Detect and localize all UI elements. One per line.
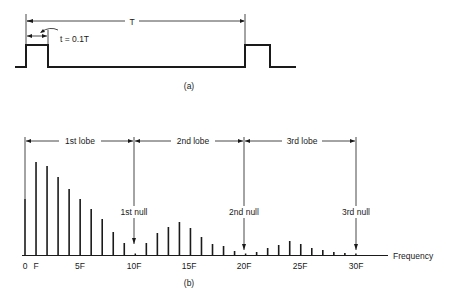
null-label-1: 1st null	[121, 207, 148, 217]
caption-b: (b)	[184, 278, 195, 288]
caption-a: (a)	[184, 81, 195, 91]
figure-canvas: T t = 0.1T (a) 1st lobe 2nd lobe 3rd lob…	[0, 0, 452, 302]
lobe-label-1: 1st lobe	[65, 136, 95, 146]
tick-label-5f: 5F	[75, 261, 85, 271]
tick-label-15f: 15F	[182, 261, 197, 271]
pulse-train-waveform	[15, 45, 296, 67]
tick-label-25f: 25F	[293, 261, 308, 271]
tick-label-10f: 10F	[127, 261, 142, 271]
lobe-label-3: 3rd lobe	[287, 136, 318, 146]
period-label: T	[129, 17, 134, 27]
x-axis-label: Frequency	[393, 251, 434, 261]
null-arrows	[132, 238, 358, 250]
lobe-label-2: 2nd lobe	[177, 136, 210, 146]
null-label-2: 2nd null	[229, 207, 259, 217]
spectrum-lines	[25, 162, 356, 255]
tick-label-20f: 20F	[237, 261, 252, 271]
tick-label-0: 0	[23, 261, 28, 271]
tick-label-30f: 30F	[349, 261, 364, 271]
null-label-3: 3rd null	[342, 207, 370, 217]
period-dimension	[26, 14, 245, 45]
pulse-width-label: t = 0.1T	[60, 34, 89, 44]
tick-label-f: F	[33, 261, 38, 271]
pulse-width-dimension	[27, 28, 58, 45]
